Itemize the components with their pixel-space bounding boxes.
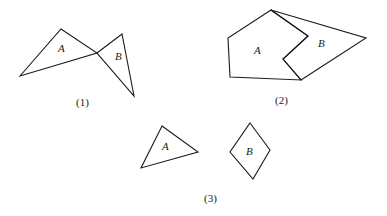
figure-2-label-b: B	[318, 37, 325, 49]
figure-3-caption: (3)	[204, 192, 217, 205]
figure-1: A B (1)	[20, 29, 134, 109]
figure-3-label-a: A	[161, 140, 169, 152]
figure-2-caption: (2)	[275, 94, 288, 107]
figure-2-region-a	[228, 10, 308, 80]
figure-3-region-a	[141, 126, 198, 168]
figure-1-region-b	[97, 34, 134, 96]
figure-2: A B (2)	[228, 10, 366, 107]
figure-1-caption: (1)	[76, 96, 89, 109]
figure-2-label-a: A	[253, 44, 261, 56]
figure-3: A B (3)	[141, 123, 270, 205]
diagram-canvas: A B (1) A B (2) A B (3)	[0, 0, 387, 216]
figure-3-label-b: B	[246, 145, 253, 157]
figure-1-label-a: A	[57, 42, 65, 54]
figure-1-label-b: B	[115, 50, 122, 62]
